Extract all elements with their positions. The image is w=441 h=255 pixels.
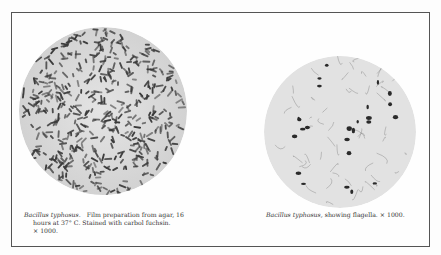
caption-left: Bacillus typhosus. Film preparation from… (24, 211, 204, 235)
micrograph-film-preparation (19, 27, 187, 195)
caption-right: Bacillus typhosus, showing flagella. × 1… (266, 211, 436, 219)
caption-text: × 1000. (24, 227, 204, 235)
species-name: Bacillus typhosus, (266, 211, 323, 218)
caption-text: Film preparation from agar, 16 (87, 211, 184, 218)
species-name: Bacillus typhosus. (24, 211, 81, 218)
micrograph-flagella (264, 56, 416, 208)
caption-text: hours at 37° C. Stained with carbol fuch… (24, 219, 204, 227)
caption-text: showing flagella. × 1000. (325, 211, 405, 218)
